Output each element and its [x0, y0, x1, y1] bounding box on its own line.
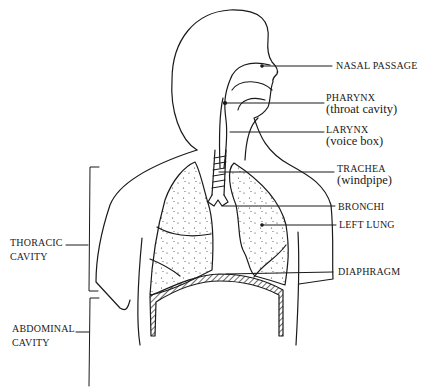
bronchi — [208, 195, 228, 206]
label-pharynx: PHARYNX (throat cavity) — [326, 92, 397, 116]
label-diaphragm: DIAPHRAGM — [338, 266, 400, 277]
palate — [232, 82, 272, 90]
thoracic-bracket — [89, 167, 99, 291]
label-abdominal-cavity: ABDOMINAL CAVITY — [12, 323, 75, 348]
label-trachea: TRACHEA (windpipe) — [337, 163, 392, 187]
oral-cavity — [238, 98, 265, 110]
right-arm-inner — [296, 232, 299, 345]
label-bronchi: BRONCHI — [338, 201, 384, 212]
abdominal-bracket — [89, 298, 99, 386]
label-left-lung: LEFT LUNG — [339, 219, 395, 230]
left-arm-inner — [138, 238, 142, 345]
label-nasal-passage: NASAL PASSAGE — [336, 60, 418, 71]
label-larynx: LARYNX (voice box) — [326, 124, 383, 148]
label-thoracic-cavity: THORACIC CAVITY — [10, 237, 63, 262]
nasal-cavity — [224, 63, 270, 168]
left-lung — [230, 163, 289, 285]
